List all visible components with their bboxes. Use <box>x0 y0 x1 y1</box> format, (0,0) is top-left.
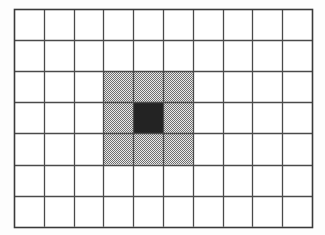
grid-canvas <box>0 0 325 235</box>
grid-figure: Square grid with shaded 3x3 neighborhood <box>0 0 325 235</box>
